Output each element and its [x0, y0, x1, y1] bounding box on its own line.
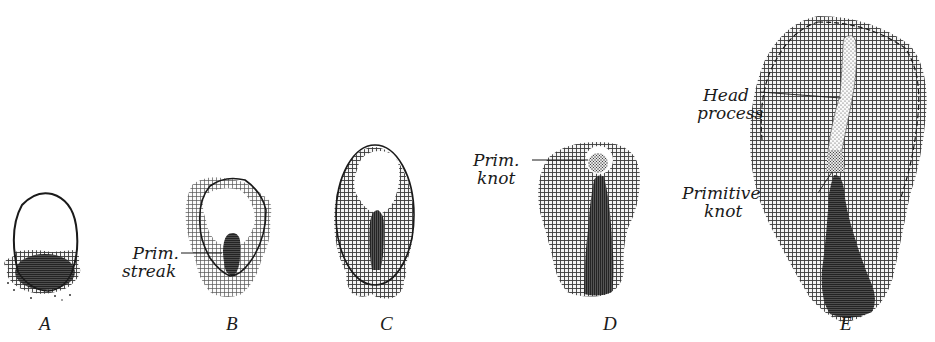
label-prim-streak-line2: streak — [122, 262, 179, 280]
stage-d-embryo — [532, 142, 640, 297]
label-prim-streak-line1: Prim. — [122, 244, 179, 262]
label-prim-knot: Prim. knot — [473, 151, 520, 187]
label-primitive-knot-line1: Primitive — [682, 184, 761, 202]
stage-label-e: E — [840, 313, 852, 335]
label-head-process: Head process — [697, 86, 763, 122]
stage-b-embryo — [181, 177, 271, 297]
stage-a-embryo — [4, 193, 80, 301]
stage-e-embryo — [750, 16, 927, 322]
label-prim-knot-line1: Prim. — [473, 151, 520, 169]
label-prim-streak: Prim. streak — [122, 244, 179, 280]
stage-label-d: D — [603, 313, 617, 335]
stage-label-b: B — [226, 313, 238, 335]
label-primitive-knot-line2: knot — [682, 202, 761, 220]
stage-c-embryo — [334, 145, 414, 299]
stage-label-a: A — [39, 313, 51, 335]
label-head-process-line1: Head — [697, 86, 763, 104]
label-prim-knot-line2: knot — [473, 169, 520, 187]
stage-label-c: C — [380, 313, 393, 335]
label-head-process-line2: process — [697, 104, 763, 122]
label-primitive-knot: Primitive knot — [682, 184, 761, 220]
embryo-stages-figure — [0, 0, 935, 342]
